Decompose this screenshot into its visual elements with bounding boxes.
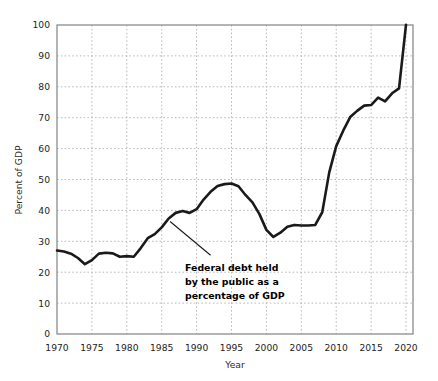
x-axis-tick-labels: 1970197519801985199019952000200520102015…	[45, 342, 418, 353]
y-tick-label: 60	[38, 143, 50, 154]
y-tick-label: 100	[32, 19, 50, 30]
x-tick-label: 1980	[115, 342, 139, 353]
y-tick-label: 50	[38, 174, 50, 185]
annotation-line-3: percentage of GDP	[185, 290, 285, 301]
y-tick-label: 90	[38, 50, 50, 61]
y-tick-label: 10	[38, 298, 50, 309]
x-tick-label: 1985	[150, 342, 174, 353]
x-tick-label: 1970	[45, 342, 69, 353]
y-tick-label: 20	[38, 267, 50, 278]
y-axis-title: Percent of GDP	[13, 145, 24, 214]
x-tick-label: 2005	[290, 342, 314, 353]
x-tick-label: 2010	[325, 342, 349, 353]
y-tick-label: 70	[38, 112, 50, 123]
y-tick-label: 80	[38, 81, 50, 92]
y-tick-label: 30	[38, 236, 50, 247]
chart-figure: Federal debt held by the public as a per…	[0, 0, 438, 381]
y-tick-label: 40	[38, 205, 50, 216]
x-axis-title: Year	[224, 359, 245, 370]
x-tick-label: 2015	[359, 342, 383, 353]
x-tick-label: 2000	[255, 342, 279, 353]
x-tick-label: 1975	[80, 342, 104, 353]
annotation-line-1: Federal debt held	[185, 262, 278, 273]
x-tick-label: 1995	[220, 342, 244, 353]
x-tick-label: 1990	[185, 342, 209, 353]
line-chart: Federal debt held by the public as a per…	[0, 0, 438, 381]
y-tick-label: 0	[44, 328, 50, 339]
x-tick-label: 2020	[394, 342, 418, 353]
annotation-line-2: by the public as a	[185, 276, 279, 287]
